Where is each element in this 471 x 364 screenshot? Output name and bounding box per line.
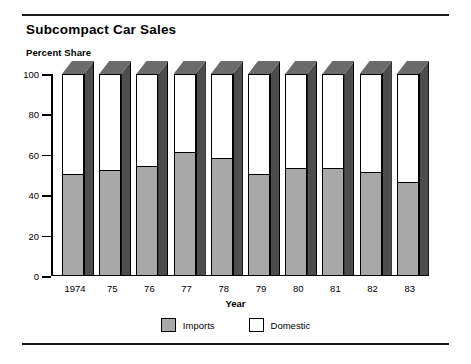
- x-tick-label: 77: [181, 283, 192, 294]
- bar-83[interactable]: 83: [397, 61, 419, 276]
- plot-area: 020406080100 1974757677787980818283: [51, 74, 423, 276]
- x-axis-title: Year: [0, 298, 471, 309]
- bar-front-domestic: [248, 74, 270, 276]
- legend-swatch: [249, 318, 264, 332]
- bar-side-face: [307, 61, 317, 276]
- bar-side-face: [344, 61, 354, 276]
- bar-segment-imports: [137, 166, 157, 275]
- chart-title: Subcompact Car Sales: [26, 22, 176, 37]
- chart-page: Subcompact Car Sales Percent Share 02040…: [0, 0, 471, 364]
- bar-75[interactable]: 75: [99, 61, 121, 276]
- bar-segment-imports: [323, 168, 343, 275]
- bar-front-domestic: [397, 74, 419, 276]
- bar-side-face: [158, 61, 168, 276]
- bar-76[interactable]: 76: [136, 61, 158, 276]
- bar-side-face: [84, 61, 94, 276]
- bar-79[interactable]: 79: [248, 61, 270, 276]
- bar-segment-imports: [398, 182, 418, 275]
- bar-front-domestic: [136, 74, 158, 276]
- bar-front-domestic: [174, 74, 196, 276]
- legend-swatch: [161, 318, 176, 332]
- bar-front-domestic: [99, 74, 121, 276]
- x-tick-label: 83: [405, 283, 416, 294]
- x-tick-label: 79: [256, 283, 267, 294]
- bar-group: 1974757677787980818283: [51, 62, 423, 276]
- bar-77[interactable]: 77: [174, 61, 196, 276]
- x-tick-label: 1974: [64, 283, 85, 294]
- bar-82[interactable]: 82: [360, 61, 382, 276]
- y-tick: [42, 236, 51, 238]
- bar-segment-imports: [63, 174, 83, 275]
- chart-legend: ImportsDomestic: [0, 318, 471, 332]
- bar-81[interactable]: 81: [322, 61, 344, 276]
- bar-78[interactable]: 78: [211, 61, 233, 276]
- bar-side-face: [382, 61, 392, 276]
- x-tick-label: 76: [144, 283, 155, 294]
- chart-subtitle: Percent Share: [26, 47, 91, 58]
- bar-segment-imports: [361, 172, 381, 275]
- bar-segment-imports: [286, 168, 306, 275]
- y-tick: [42, 195, 51, 197]
- x-tick-label: 80: [293, 283, 304, 294]
- bar-front-domestic: [62, 74, 84, 276]
- bottom-divider-rule: [22, 343, 449, 345]
- bar-side-face: [233, 61, 243, 276]
- top-divider-rule: [22, 14, 449, 16]
- bar-front-domestic: [211, 74, 233, 276]
- bar-segment-imports: [212, 158, 232, 275]
- bar-front-domestic: [360, 74, 382, 276]
- legend-label: Domestic: [271, 320, 311, 331]
- x-tick-label: 81: [330, 283, 341, 294]
- x-tick-label: 75: [107, 283, 118, 294]
- x-tick-label: 82: [367, 283, 378, 294]
- bar-side-face: [419, 61, 429, 276]
- y-tick-label: 0: [34, 271, 39, 282]
- y-tick-label: 60: [28, 149, 39, 160]
- bar-segment-imports: [249, 174, 269, 275]
- y-tick: [42, 155, 51, 157]
- y-tick-label: 40: [28, 190, 39, 201]
- bar-segment-imports: [100, 170, 120, 275]
- x-tick-label: 78: [219, 283, 230, 294]
- bar-1974[interactable]: 1974: [62, 61, 84, 276]
- bar-side-face: [196, 61, 206, 276]
- y-tick-label: 80: [28, 109, 39, 120]
- legend-item[interactable]: Domestic: [249, 318, 311, 332]
- y-tick: [42, 74, 51, 76]
- bar-segment-imports: [175, 152, 195, 275]
- y-tick-label: 100: [23, 69, 39, 80]
- bar-side-face: [270, 61, 280, 276]
- bar-front-domestic: [285, 74, 307, 276]
- bar-side-face: [121, 61, 131, 276]
- bar-80[interactable]: 80: [285, 61, 307, 276]
- y-tick: [42, 276, 51, 278]
- legend-item[interactable]: Imports: [161, 318, 215, 332]
- y-tick: [42, 114, 51, 116]
- y-tick-label: 20: [28, 230, 39, 241]
- bar-front-domestic: [322, 74, 344, 276]
- legend-label: Imports: [183, 320, 215, 331]
